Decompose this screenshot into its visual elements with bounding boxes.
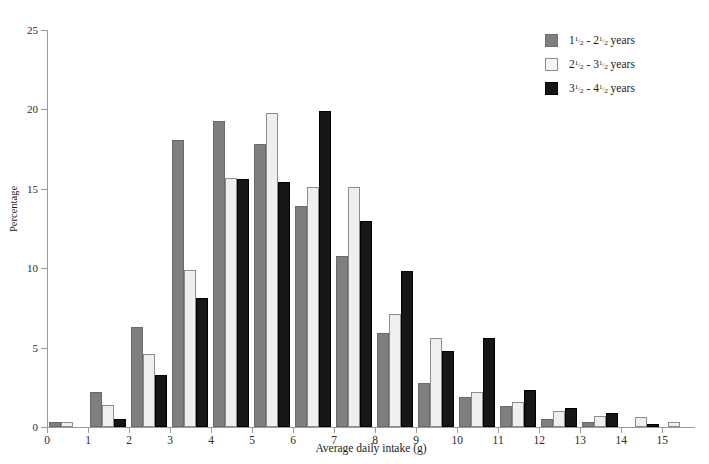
bar [553,411,565,427]
bar [336,256,348,428]
legend: 11/2 - 21/2 years21/2 - 31/2 years31/2 -… [545,28,705,100]
bar [442,351,454,427]
bar [565,408,577,427]
bar [668,422,680,427]
y-axis-title: Percentage [8,186,19,232]
y-tick-label: 25 [27,24,38,36]
x-tick [498,427,499,433]
bar [418,383,430,427]
bar [213,121,225,427]
x-tick [293,427,294,433]
y-axis-line [47,30,48,427]
bar [348,187,360,427]
legend-item-label: 31/2 - 41/2 years [569,82,635,94]
y-tick-label: 5 [33,342,39,354]
x-tick [621,427,622,433]
x-tick [580,427,581,433]
x-tick [211,427,212,433]
x-tick [88,427,89,433]
y-tick-label: 0 [33,421,39,433]
bar [500,406,512,427]
x-tick [662,427,663,433]
legend-item[interactable]: 11/2 - 21/2 years [545,28,705,52]
bar [512,402,524,427]
x-tick [47,427,48,433]
legend-item-label: 21/2 - 31/2 years [569,58,635,70]
y-tick-label: 20 [27,103,38,115]
x-tick [416,427,417,433]
bar [582,422,594,427]
bar [295,206,307,427]
bar [143,354,155,427]
x-tick [334,427,335,433]
x-tick [129,427,130,433]
bar [606,413,618,427]
legend-item[interactable]: 31/2 - 41/2 years [545,76,705,100]
bar [430,338,442,427]
bar [377,333,389,427]
bar [319,111,331,427]
bar [155,375,167,427]
bar [114,419,126,427]
bar [196,298,208,427]
bar [172,140,184,427]
bar [483,338,495,427]
bar [471,392,483,427]
y-tick [41,189,47,190]
x-tick [457,427,458,433]
y-tick [41,268,47,269]
bar [184,270,196,427]
legend-swatch-icon [545,58,558,71]
x-tick [170,427,171,433]
legend-item[interactable]: 21/2 - 31/2 years [545,52,705,76]
bar [102,405,114,427]
y-tick-label: 15 [27,183,38,195]
x-tick [252,427,253,433]
y-tick [41,348,47,349]
bar [266,113,278,427]
bar [401,271,413,427]
bar [254,144,266,427]
bar [459,397,471,427]
bar [278,182,290,427]
bar [90,392,102,427]
bar [307,187,319,427]
cut-off-caption [0,0,709,10]
bar [61,422,73,427]
bar [594,416,606,427]
bar [635,417,647,427]
legend-swatch-icon [545,34,558,47]
y-tick [41,109,47,110]
bar [389,314,401,427]
x-tick [539,427,540,433]
bar [524,390,536,427]
x-tick [375,427,376,433]
y-tick [41,30,47,31]
x-axis-title: Average daily intake (g) [47,442,695,454]
bar [49,422,61,427]
y-tick-label: 10 [27,262,38,274]
bar [237,179,249,427]
bar [225,178,237,427]
bar [131,327,143,427]
bar-chart: 0510152025 0123456789101112131415 Percen… [0,0,709,464]
x-axis-line [47,427,695,428]
bar [360,221,372,427]
legend-item-label: 11/2 - 21/2 years [569,34,635,46]
legend-swatch-icon [545,82,558,95]
bar [541,419,553,427]
bar [647,424,659,427]
